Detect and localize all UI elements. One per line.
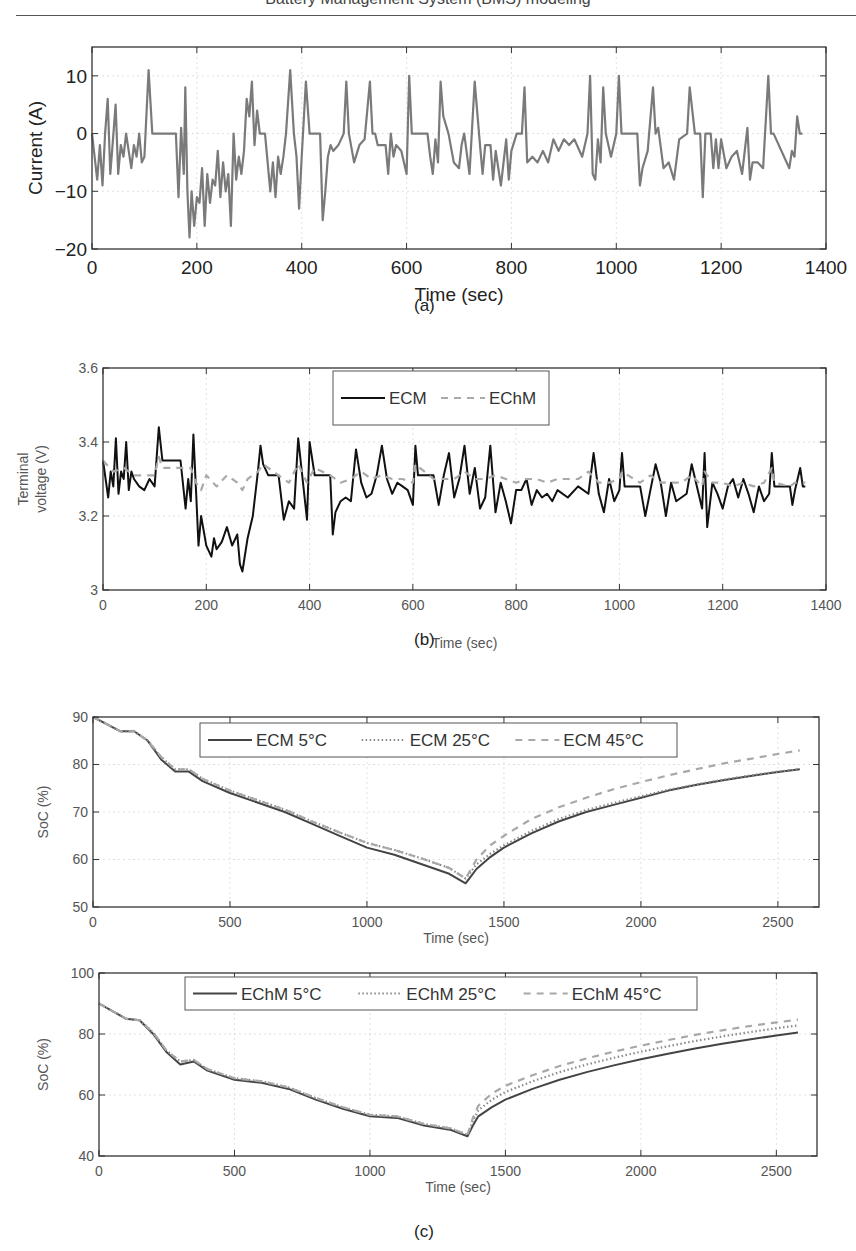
x-tick-label: 2500: [762, 914, 793, 930]
x-tick-label: 400: [298, 597, 322, 613]
x-tick-label: 0: [95, 1163, 103, 1179]
y-tick-label: 3.4: [79, 434, 99, 450]
legend-label: EChM 45°C: [572, 985, 662, 1004]
series-line: [99, 1004, 798, 1137]
legend-label: EChM: [489, 389, 536, 408]
y-tick-label: 40: [78, 1148, 94, 1164]
chart-a: 0200400600800100012001400−20−10010Time (…: [25, 47, 847, 305]
x-tick-label: 2000: [625, 914, 656, 930]
caption-a: (a): [414, 296, 435, 316]
x-tick-label: 500: [218, 914, 242, 930]
series-line: [92, 70, 802, 237]
x-tick-label: 1400: [805, 257, 847, 278]
legend-label: ECM 25°C: [410, 731, 490, 750]
x-tick-label: 0: [89, 914, 97, 930]
y-axis-label: Terminal: [15, 453, 31, 506]
x-tick-label: 400: [286, 257, 318, 278]
x-tick-label: 1200: [707, 597, 738, 613]
x-tick-label: 2000: [625, 1163, 656, 1179]
x-axis-label: Time (sec): [423, 930, 489, 946]
y-tick-label: 100: [71, 965, 95, 981]
y-tick-label: 50: [72, 899, 88, 915]
x-tick-label: 0: [87, 257, 98, 278]
legend-label: EChM 25°C: [406, 985, 496, 1004]
x-tick-label: 200: [181, 257, 213, 278]
y-tick-label: −20: [55, 239, 87, 260]
y-tick-label: 3.2: [79, 508, 99, 524]
y-tick-label: 60: [72, 851, 88, 867]
x-tick-label: 1000: [595, 257, 637, 278]
x-tick-label: 800: [496, 257, 528, 278]
x-tick-label: 500: [223, 1163, 247, 1179]
x-axis-label: Time (sec): [432, 635, 498, 651]
chart-b: 020040060080010001200140033.23.43.6Time …: [15, 360, 842, 651]
series-line: [103, 457, 805, 490]
y-tick-label: 3.6: [79, 360, 99, 376]
x-tick-label: 800: [504, 597, 528, 613]
caption-c: (c): [414, 1222, 434, 1242]
x-tick-label: 1000: [604, 597, 635, 613]
y-tick-label: 80: [72, 756, 88, 772]
y-tick-label: 80: [78, 1026, 94, 1042]
chart-c-lower: 05001000150020002500406080100Time (sec)S…: [35, 965, 817, 1195]
y-tick-label: 90: [72, 709, 88, 725]
x-tick-label: 200: [195, 597, 219, 613]
legend-label: EChM 5°C: [241, 985, 321, 1004]
x-tick-label: 0: [99, 597, 107, 613]
x-tick-label: 1400: [810, 597, 841, 613]
x-tick-label: 600: [401, 597, 425, 613]
y-axis-label: voltage (V): [33, 445, 49, 513]
figure-charts: 0200400600800100012001400−20−10010Time (…: [0, 0, 856, 1251]
y-axis-label: SoC (%): [35, 786, 51, 839]
y-tick-label: 3: [90, 582, 98, 598]
x-tick-label: 600: [391, 257, 423, 278]
series-line: [103, 427, 805, 571]
y-tick-label: 0: [76, 123, 87, 144]
y-tick-label: 70: [72, 804, 88, 820]
x-axis-label: Time (sec): [425, 1179, 491, 1195]
x-tick-label: 1000: [351, 914, 382, 930]
y-axis-label: Current (A): [25, 101, 46, 195]
x-tick-label: 1200: [700, 257, 742, 278]
x-tick-label: 1500: [488, 914, 519, 930]
legend-label: ECM 5°C: [256, 731, 327, 750]
x-tick-label: 2500: [761, 1163, 792, 1179]
y-tick-label: 60: [78, 1087, 94, 1103]
legend-label: ECM 45°C: [563, 731, 643, 750]
chart-c-upper: 050010001500200025005060708090Time (sec)…: [35, 709, 819, 946]
x-tick-label: 1000: [354, 1163, 385, 1179]
legend-label: ECM: [389, 389, 427, 408]
x-tick-label: 1500: [490, 1163, 521, 1179]
y-axis-label: SoC (%): [35, 1038, 51, 1091]
y-tick-label: 10: [66, 66, 87, 87]
caption-b: (b): [414, 630, 435, 650]
y-tick-label: −10: [55, 181, 87, 202]
